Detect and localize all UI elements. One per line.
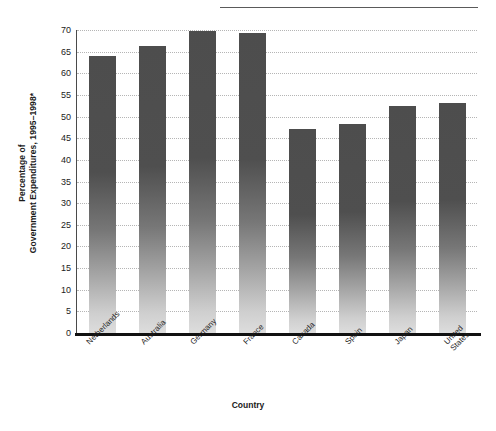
y-axis-tick-label: 35	[61, 177, 71, 187]
bar-slot	[427, 30, 477, 333]
category-label-slot: Canada	[276, 336, 326, 396]
top-divider-rule	[220, 7, 478, 8]
y-axis-tick-label: 20	[61, 241, 71, 251]
y-axis-tick-label: 65	[61, 47, 71, 57]
bar-japan	[389, 106, 416, 333]
bar-slot	[177, 30, 227, 333]
category-label-slot: UnitedStates	[426, 336, 476, 396]
y-axis-title-line-1: Percentage of	[17, 92, 28, 252]
y-axis-tick-label: 50	[61, 112, 71, 122]
y-axis-tick-label: 60	[61, 68, 71, 78]
category-label-slot: Japan	[376, 336, 426, 396]
bar-united-states	[439, 103, 466, 333]
bar-slot	[77, 30, 127, 333]
bars-group	[77, 30, 477, 333]
bar-canada	[289, 129, 316, 333]
y-axis-tick-label: 45	[61, 133, 71, 143]
bar-germany	[189, 31, 216, 333]
bar-slot	[277, 30, 327, 333]
y-axis-tick-label: 25	[61, 220, 71, 230]
y-axis-title: Percentage of Government Expenditures, 1…	[0, 0, 56, 345]
y-axis-title-line-2: Government Expenditures, 1995–1998*	[28, 92, 39, 252]
bar-slot	[377, 30, 427, 333]
bar-france	[239, 33, 266, 333]
bar-australia	[139, 46, 166, 333]
bar-netherlands	[89, 56, 116, 333]
category-label-slot: Spain	[326, 336, 376, 396]
x-axis-category-labels: NetherlandsAustraliaGermanyFranceCanadaS…	[76, 336, 476, 396]
y-axis-tick-label: 5	[66, 306, 71, 316]
y-axis-tick-label: 55	[61, 90, 71, 100]
bar-spain	[339, 124, 366, 333]
category-label-slot: Netherlands	[76, 336, 126, 396]
y-axis-tick-label: 0	[66, 328, 71, 338]
category-label-slot: Germany	[176, 336, 226, 396]
y-axis-tick-label: 30	[61, 198, 71, 208]
y-axis-tick-label: 15	[61, 263, 71, 273]
category-label-slot: Australia	[126, 336, 176, 396]
y-axis-tick-label: 10	[61, 285, 71, 295]
plot-area: 0510152025303540455055606570	[76, 30, 477, 333]
x-axis-title: Country	[0, 400, 496, 410]
y-axis-tick-label: 70	[61, 25, 71, 35]
bar-slot	[227, 30, 277, 333]
bar-slot	[127, 30, 177, 333]
bar-chart-figure: Percentage of Government Expenditures, 1…	[0, 0, 496, 431]
y-axis-tick-label: 40	[61, 155, 71, 165]
bar-slot	[327, 30, 377, 333]
category-label-slot: France	[226, 336, 276, 396]
